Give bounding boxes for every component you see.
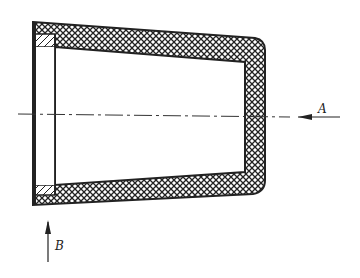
open-end (35, 47, 55, 185)
label-b: B (54, 239, 64, 253)
hatched-wall (33, 22, 265, 205)
section-drawing: A B (0, 0, 360, 278)
flange-bottom (35, 185, 55, 195)
arrowhead-up-icon (45, 220, 51, 234)
arrowhead-left-icon (298, 114, 312, 120)
view-arrow-a: A (298, 102, 340, 120)
flange-top (35, 34, 55, 47)
view-arrow-b: B (45, 220, 64, 262)
label-a: A (317, 102, 327, 116)
